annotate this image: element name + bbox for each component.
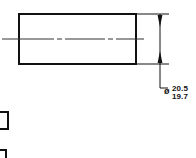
- lower-limit-value: 19.7: [172, 93, 188, 101]
- technical-drawing-canvas: ø 20.5 19.7: [0, 0, 196, 158]
- callout-leader-line: [160, 64, 168, 88]
- dimension-arrowhead-top: [158, 15, 163, 27]
- diameter-symbol-icon: ø: [164, 86, 170, 96]
- clipped-corner-mark: [0, 150, 6, 158]
- drawing-vector-layer: [0, 0, 196, 158]
- clipped-rectangle-fragment: [0, 112, 8, 129]
- dimension-arrowhead-bottom: [158, 51, 163, 63]
- diameter-callout-text: 20.5 19.7: [172, 85, 188, 100]
